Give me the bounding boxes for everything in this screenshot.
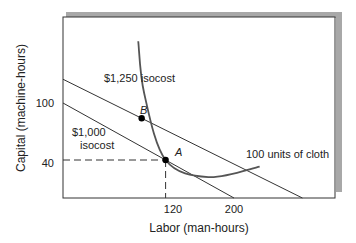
plot-frame — [63, 17, 335, 198]
x-tick-200: 200 — [225, 203, 243, 215]
lower-isocost-label-line1: $1,000 — [72, 126, 106, 138]
upper-isocost-label: $1,250 isocost — [104, 72, 175, 84]
frame-shadow-right — [336, 12, 342, 192]
point-b-label: B — [140, 104, 147, 116]
y-axis-label: Capital (machine-hours) — [14, 44, 28, 172]
point-a — [162, 157, 168, 163]
point-a-label: A — [174, 146, 182, 158]
x-axis-label: Labor (man-hours) — [149, 221, 248, 235]
y-tick-40: 40 — [42, 157, 54, 169]
lower-isocost-label-line2: isocost — [80, 139, 114, 151]
y-tick-100: 100 — [36, 97, 54, 109]
chart: $1,250 isocost $1,000 isocost 100 units … — [0, 0, 356, 243]
isoquant-label: 100 units of cloth — [246, 148, 329, 160]
x-tick-120: 120 — [164, 203, 182, 215]
